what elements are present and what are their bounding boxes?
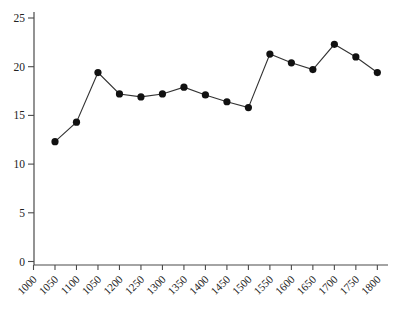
y-tick-label: 15 — [14, 109, 26, 121]
x-tick-label: 1400 — [187, 273, 211, 297]
data-point-marker — [352, 53, 359, 60]
y-tick-label: 10 — [14, 158, 26, 170]
x-tick-label: 1100 — [58, 273, 82, 297]
data-point-marker — [159, 90, 166, 97]
data-point-marker — [202, 91, 209, 98]
x-tick-label: 1350 — [165, 273, 189, 297]
x-tick-label: 1600 — [273, 273, 297, 297]
data-point-marker — [94, 69, 101, 76]
x-tick-label: 1250 — [122, 273, 146, 297]
x-tick-label: 1700 — [316, 273, 340, 297]
data-line — [55, 44, 377, 141]
line-chart-svg: 0510152025100010501100105012001250130013… — [0, 0, 406, 310]
x-tick-label: 1800 — [359, 273, 383, 297]
y-tick-label: 5 — [19, 207, 25, 219]
data-point-marker — [51, 138, 58, 145]
x-tick-label: 1500 — [230, 273, 254, 297]
x-tick-label: 1550 — [251, 273, 275, 297]
line-chart: 0510152025100010501100105012001250130013… — [0, 0, 406, 310]
data-point-marker — [223, 98, 230, 105]
x-tick-label: 1750 — [337, 273, 361, 297]
x-tick-label: 1450 — [208, 273, 232, 297]
data-point-marker — [374, 69, 381, 76]
x-tick-label: 1300 — [144, 273, 168, 297]
x-tick-label: 1200 — [101, 273, 125, 297]
data-point-marker — [245, 104, 252, 111]
data-point-marker — [331, 41, 338, 48]
x-tick-label: 1000 — [15, 273, 39, 297]
x-tick-label: 1650 — [294, 273, 318, 297]
data-point-marker — [137, 93, 144, 100]
data-point-marker — [266, 50, 273, 57]
data-point-marker — [116, 90, 123, 97]
x-tick-label: 1050 — [79, 273, 103, 297]
data-point-marker — [309, 66, 316, 73]
y-tick-label: 0 — [19, 256, 25, 268]
x-tick-label: 1050 — [36, 273, 60, 297]
y-tick-label: 25 — [14, 12, 26, 24]
data-point-marker — [73, 119, 80, 126]
data-point-marker — [180, 84, 187, 91]
y-tick-label: 20 — [14, 61, 26, 73]
data-point-marker — [288, 59, 295, 66]
